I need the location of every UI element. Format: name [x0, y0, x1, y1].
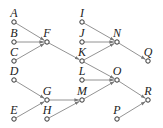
node-circle-icon [12, 20, 16, 24]
node-label: E [9, 103, 18, 117]
edge-n-q [119, 43, 146, 59]
node-label: B [10, 26, 18, 40]
node-label: O [113, 64, 122, 78]
edge-c-f [16, 43, 45, 60]
node-label: Q [144, 45, 153, 59]
edge-k-n [84, 43, 115, 60]
node-label: A [9, 6, 18, 20]
node-p: P [112, 103, 121, 121]
edge-p-r [119, 101, 146, 117]
node-f: F [42, 26, 51, 44]
node-circle-icon [12, 117, 16, 121]
edge-f-k [49, 43, 80, 60]
node-m: M [76, 84, 88, 102]
node-circle-icon [115, 78, 119, 82]
node-label: C [10, 45, 19, 59]
node-n: N [112, 26, 122, 44]
node-label: N [112, 26, 122, 40]
edge-d-g [16, 81, 45, 98]
node-label: I [79, 6, 85, 20]
node-o: O [113, 64, 122, 82]
node-circle-icon [115, 117, 119, 121]
node-circle-icon [80, 59, 84, 63]
node-r: R [143, 84, 152, 102]
node-label: K [77, 45, 87, 59]
node-circle-icon [146, 98, 150, 102]
node-circle-icon [80, 98, 84, 102]
edge-m-o [84, 81, 115, 99]
node-circle-icon [45, 117, 49, 121]
node-label: H [42, 103, 53, 117]
node-e: E [9, 103, 18, 121]
edge-k-o [84, 62, 115, 79]
node-label: M [76, 84, 88, 98]
node-circle-icon [146, 59, 150, 63]
node-circle-icon [115, 40, 119, 44]
edge-h-m [49, 101, 80, 118]
node-circle-icon [80, 40, 84, 44]
node-circle-icon [80, 20, 84, 24]
node-k: K [77, 45, 87, 63]
node-g: G [43, 84, 52, 102]
node-j: J [79, 26, 85, 44]
node-label: R [143, 84, 152, 98]
node-c: C [10, 45, 19, 63]
node-d: D [9, 64, 19, 82]
edge-e-g [16, 101, 45, 118]
edge-o-r [119, 81, 146, 98]
node-circle-icon [80, 78, 84, 82]
node-i: I [79, 6, 85, 24]
node-circle-icon [12, 59, 16, 63]
node-l: L [78, 64, 86, 82]
node-circle-icon [45, 40, 49, 44]
edge-a-f [16, 23, 45, 40]
node-label: P [112, 103, 121, 117]
edge-i-n [84, 23, 115, 41]
node-label: J [79, 26, 85, 40]
dag-diagram: ABCDEFGHIJKLMNOPQR [0, 0, 163, 128]
node-label: F [42, 26, 51, 40]
node-circle-icon [45, 98, 49, 102]
node-label: G [43, 84, 52, 98]
node-circle-icon [12, 78, 16, 82]
node-circle-icon [12, 40, 16, 44]
node-a: A [9, 6, 18, 24]
node-layer: ABCDEFGHIJKLMNOPQR [9, 6, 153, 121]
node-b: B [10, 26, 18, 44]
node-label: D [9, 64, 19, 78]
node-h: H [42, 103, 53, 121]
node-q: Q [144, 45, 153, 63]
node-label: L [78, 64, 86, 78]
